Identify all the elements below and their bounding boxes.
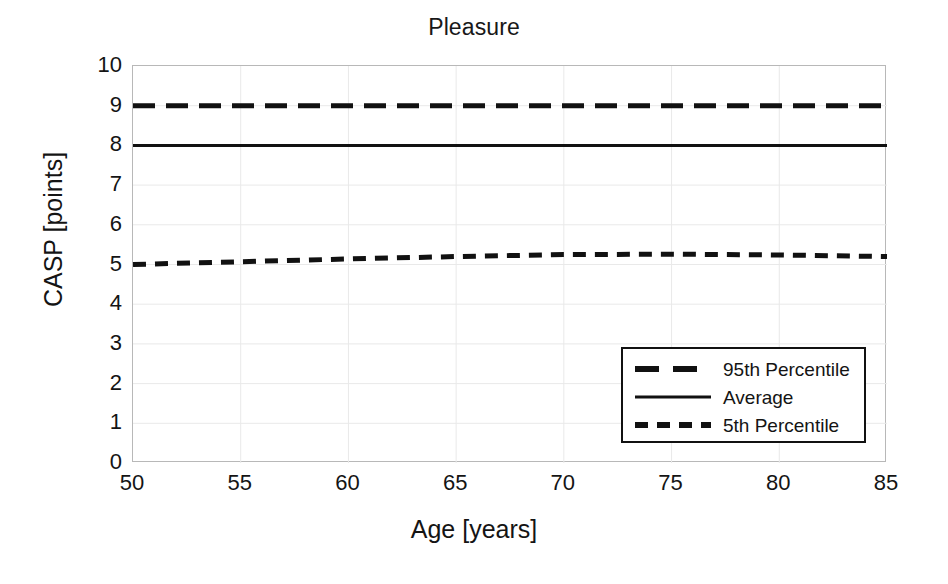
y-tick-label: 8 xyxy=(82,133,122,155)
y-axis-title: CASP [points] xyxy=(39,120,68,340)
y-tick-label: 4 xyxy=(82,292,122,314)
x-tick-label: 50 xyxy=(102,472,162,494)
legend-item-label: 95th Percentile xyxy=(723,360,850,379)
x-tick-label: 65 xyxy=(425,472,485,494)
x-axis-tick-labels: 5055606570758085 xyxy=(132,472,886,502)
legend-item-label: 5th Percentile xyxy=(723,416,839,435)
legend-item: 5th Percentile xyxy=(623,411,864,439)
y-tick-label: 0 xyxy=(82,451,122,473)
x-tick-label: 80 xyxy=(748,472,808,494)
y-tick-label: 2 xyxy=(82,372,122,394)
y-tick-label: 5 xyxy=(82,253,122,275)
y-tick-label: 7 xyxy=(82,173,122,195)
chart-legend: 95th PercentileAverage5th Percentile xyxy=(621,347,866,443)
long-dash-line-icon xyxy=(635,362,711,376)
y-axis-tick-labels: 109876543210 xyxy=(72,65,122,462)
y-tick-label: 6 xyxy=(82,213,122,235)
legend-item-label: Average xyxy=(723,388,793,407)
short-dash-line-icon xyxy=(635,418,711,432)
legend-item: 95th Percentile xyxy=(623,355,864,383)
x-tick-label: 60 xyxy=(317,472,377,494)
y-tick-label: 10 xyxy=(82,54,122,76)
y-tick-label: 1 xyxy=(82,411,122,433)
x-tick-label: 55 xyxy=(210,472,270,494)
y-tick-label: 3 xyxy=(82,332,122,354)
series-line xyxy=(133,254,887,264)
legend-item: Average xyxy=(623,383,864,411)
page-title: Pleasure xyxy=(0,14,948,41)
x-axis-title: Age [years] xyxy=(0,515,948,544)
solid-line-icon xyxy=(635,390,711,404)
y-tick-label: 9 xyxy=(82,94,122,116)
x-tick-label: 75 xyxy=(641,472,701,494)
chart-figure: Pleasure CASP [points] 109876543210 5055… xyxy=(0,0,948,584)
x-tick-label: 70 xyxy=(533,472,593,494)
x-tick-label: 85 xyxy=(856,472,916,494)
